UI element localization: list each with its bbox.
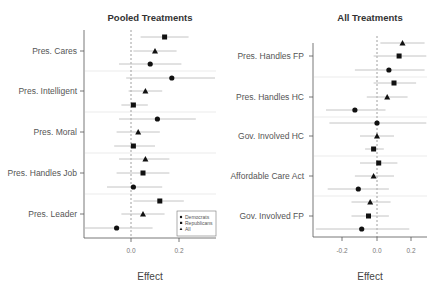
square-marker-icon xyxy=(392,81,397,86)
x-axis-title: Effect xyxy=(137,271,163,282)
circle-marker-icon xyxy=(359,226,364,231)
figure: Pooled Treatments Pres. Cares Pres. Inte… xyxy=(0,0,441,293)
y-label: Pres. Handles HC xyxy=(236,92,304,102)
panel-pooled-treatments: Pooled Treatments Pres. Cares Pres. Inte… xyxy=(8,12,216,282)
x-tick-label: 0.0 xyxy=(372,247,381,254)
square-marker-icon xyxy=(397,54,402,59)
plot-area xyxy=(314,36,427,237)
y-label: Pres. Leader xyxy=(28,209,77,219)
square-marker-icon xyxy=(376,161,381,166)
panel-all-treatments: All Treatments Pres. Handles FP Pres. Ha… xyxy=(230,12,427,282)
circle-marker-icon xyxy=(131,184,136,189)
square-marker-icon xyxy=(366,214,371,219)
square-marker-icon xyxy=(162,35,167,40)
square-marker-icon xyxy=(371,147,376,152)
circle-marker-icon xyxy=(155,116,160,121)
coefficient-plots: Pooled Treatments Pres. Cares Pres. Inte… xyxy=(0,0,441,293)
panel-title: All Treatments xyxy=(337,12,402,23)
circle-marker-icon xyxy=(114,225,119,230)
y-label: Pres. Moral xyxy=(34,127,78,137)
plot-area xyxy=(85,30,216,238)
square-marker-icon xyxy=(180,222,182,224)
square-marker-icon xyxy=(131,103,136,108)
circle-marker-icon xyxy=(356,186,361,191)
x-tick-label: -0.2 xyxy=(336,247,348,254)
circle-marker-icon xyxy=(148,61,153,66)
square-marker-icon xyxy=(157,199,162,204)
x-tick-label: 0.2 xyxy=(174,247,183,254)
y-label: Pres. Handles Job xyxy=(8,168,78,178)
x-axis-title: Effect xyxy=(357,271,383,282)
square-marker-icon xyxy=(141,171,146,176)
panel-title: Pooled Treatments xyxy=(108,12,193,23)
square-marker-icon xyxy=(131,144,136,149)
x-tick-label: 0.2 xyxy=(406,247,415,254)
circle-marker-icon xyxy=(374,120,379,125)
legend: Democrats Republicans All xyxy=(177,211,216,236)
legend-label: All xyxy=(185,226,191,232)
circle-marker-icon xyxy=(352,107,357,112)
x-tick-label: 0.0 xyxy=(126,247,135,254)
y-label: Pres. Cares xyxy=(32,46,77,56)
circle-marker-icon xyxy=(169,75,174,80)
circle-marker-icon xyxy=(180,216,182,218)
y-label: Pres. Intelligent xyxy=(18,86,77,96)
y-label: Pres. Handles FP xyxy=(237,51,304,61)
y-label: Affordable Care Act xyxy=(230,171,304,181)
circle-marker-icon xyxy=(386,67,391,72)
y-label: Gov. Involved HC xyxy=(238,131,304,141)
y-label: Gov. Involved FP xyxy=(239,211,304,221)
